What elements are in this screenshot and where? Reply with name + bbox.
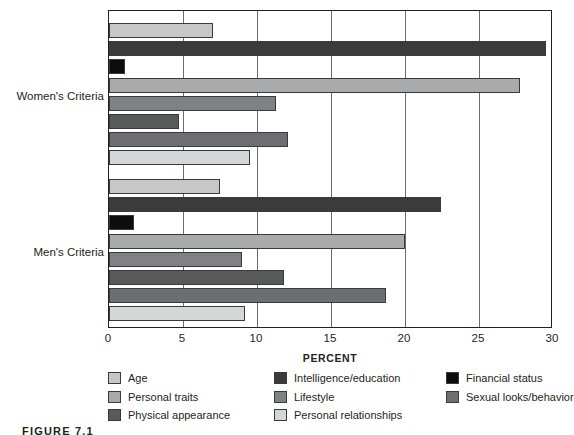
bar bbox=[109, 306, 245, 321]
legend-swatch-icon bbox=[446, 372, 459, 384]
legend-column-2: Intelligence/educationLifestylePersonal … bbox=[274, 370, 402, 426]
plot-area bbox=[108, 10, 552, 328]
legend-label: Physical appearance bbox=[128, 409, 230, 421]
legend-swatch-icon bbox=[274, 391, 287, 403]
x-tick-label-5: 5 bbox=[179, 332, 185, 344]
legend-label: Age bbox=[128, 372, 148, 384]
legend-label: Personal relationships bbox=[294, 409, 402, 421]
legend-label: Lifestyle bbox=[294, 391, 334, 403]
category-label-women: Women's Criteria bbox=[0, 90, 104, 102]
legend-label: Personal traits bbox=[128, 391, 198, 403]
x-tick-label-10: 10 bbox=[250, 332, 263, 344]
x-tick-label-15: 15 bbox=[324, 332, 337, 344]
legend-label: Intelligence/education bbox=[294, 372, 400, 384]
legend-item: Personal relationships bbox=[274, 407, 402, 423]
bar bbox=[109, 197, 441, 212]
legend-item: Intelligence/education bbox=[274, 370, 402, 386]
bar bbox=[109, 215, 134, 230]
bar bbox=[109, 41, 546, 56]
bar bbox=[109, 23, 213, 38]
legend-item: Financial status bbox=[446, 370, 574, 386]
figure-caption: FIGURE 7.1 bbox=[22, 425, 94, 435]
bar bbox=[109, 252, 242, 267]
legend-label: Financial status bbox=[466, 372, 542, 384]
legend-swatch-icon bbox=[108, 409, 121, 421]
bar-series-layer bbox=[109, 11, 551, 327]
bar bbox=[109, 114, 179, 129]
bar bbox=[109, 96, 276, 111]
legend-swatch-icon bbox=[108, 372, 121, 384]
category-label-men: Men's Criteria bbox=[0, 246, 104, 258]
x-tick-label-30: 30 bbox=[546, 332, 559, 344]
bar bbox=[109, 288, 386, 303]
legend-swatch-icon bbox=[108, 391, 121, 403]
legend-item: Personal traits bbox=[108, 389, 230, 405]
legend: AgePersonal traitsPhysical appearance In… bbox=[108, 370, 560, 422]
bar bbox=[109, 59, 125, 74]
legend-item: Lifestyle bbox=[274, 389, 402, 405]
x-tick-label-25: 25 bbox=[472, 332, 485, 344]
bar bbox=[109, 234, 405, 249]
bar bbox=[109, 132, 288, 147]
legend-item: Age bbox=[108, 370, 230, 386]
x-axis-title: PERCENT bbox=[108, 352, 552, 364]
legend-item: Sexual looks/behavior bbox=[446, 389, 574, 405]
legend-label: Sexual looks/behavior bbox=[466, 391, 574, 403]
legend-item: Physical appearance bbox=[108, 407, 230, 423]
bar bbox=[109, 179, 220, 194]
bar bbox=[109, 150, 250, 165]
bar bbox=[109, 78, 520, 93]
legend-swatch-icon bbox=[274, 372, 287, 384]
legend-column-1: AgePersonal traitsPhysical appearance bbox=[108, 370, 230, 426]
legend-swatch-icon bbox=[446, 391, 459, 403]
legend-swatch-icon bbox=[274, 409, 287, 421]
x-tick-label-20: 20 bbox=[398, 332, 411, 344]
bar bbox=[109, 270, 284, 285]
x-tick-label-0: 0 bbox=[105, 332, 111, 344]
legend-column-3: Financial statusSexual looks/behavior bbox=[446, 370, 574, 407]
